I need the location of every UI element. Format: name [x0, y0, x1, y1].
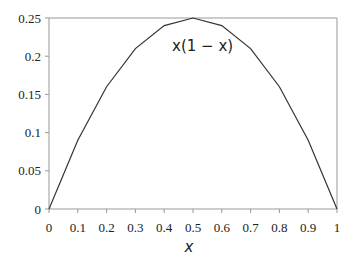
x-tick-label: 0.7 [242, 220, 259, 235]
x-tick-label: 0.3 [127, 220, 143, 235]
x-tick-label: 1 [334, 220, 341, 235]
y-tick-label: 0.25 [18, 11, 41, 26]
line-chart: 00.050.10.150.20.25 00.10.20.30.40.50.60… [0, 0, 351, 269]
x-tick-label: 0.2 [98, 220, 114, 235]
x-axis-label: x [184, 238, 194, 256]
x-tick-label: 0.4 [156, 220, 173, 235]
x-tick-label: 0 [46, 220, 53, 235]
x-tick-label: 0.5 [185, 220, 201, 235]
y-tick-label: 0 [35, 202, 42, 217]
x-tick-label: 0.1 [70, 220, 86, 235]
y-tick-label: 0.15 [18, 87, 41, 102]
y-tick-label: 0.05 [18, 163, 41, 178]
x-tick-label: 0.9 [300, 220, 316, 235]
y-tick-label: 0.2 [25, 49, 41, 64]
curve-annotation: x(1 − x) [172, 37, 233, 55]
y-tick-label: 0.1 [25, 125, 41, 140]
x-tick-label: 0.6 [214, 220, 231, 235]
x-ticks: 00.10.20.30.40.50.60.70.80.91 [46, 209, 341, 235]
y-ticks: 00.050.10.150.20.25 [18, 11, 49, 217]
x-tick-label: 0.8 [271, 220, 287, 235]
